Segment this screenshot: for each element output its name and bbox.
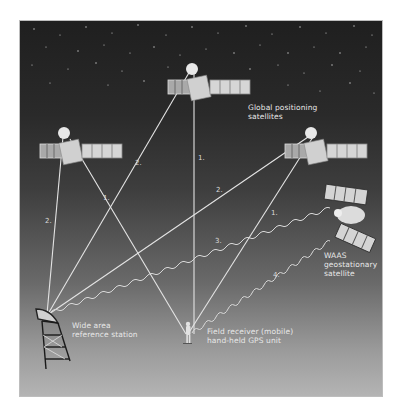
gps-satellite-top xyxy=(168,63,250,101)
label-reference-station: Wide area reference station xyxy=(72,321,138,339)
gps-waas-diagram: Global positioning satellites WAAS geost… xyxy=(20,21,382,396)
signal-number: 1. xyxy=(271,209,278,217)
label-field-receiver: Field receiver (mobile) hand-held GPS un… xyxy=(207,327,293,345)
field-receiver-person xyxy=(183,322,192,344)
signal-number: 2. xyxy=(216,186,223,194)
label-line: satellite xyxy=(324,269,377,278)
signal-number: 1. xyxy=(198,154,205,162)
waas-satellite xyxy=(324,184,376,252)
label-gps-satellites: Global positioning satellites xyxy=(248,103,317,121)
label-line: WAAS xyxy=(324,251,377,260)
signal-number: 1. xyxy=(103,194,110,202)
diagram-graphics xyxy=(20,21,382,396)
label-line: Global positioning xyxy=(248,103,317,112)
label-line: hand-held GPS unit xyxy=(207,336,293,345)
gps-satellite-right xyxy=(285,127,367,165)
signal-number: 4. xyxy=(273,271,280,279)
label-waas-satellite: WAAS geostationary satellite xyxy=(324,251,377,278)
signal-number: 2. xyxy=(135,159,142,167)
label-line: satellites xyxy=(248,112,317,121)
label-line: Wide area xyxy=(72,321,138,330)
label-line: reference station xyxy=(72,330,138,339)
reference-station-tower xyxy=(36,309,70,369)
signal-number: 2. xyxy=(45,217,52,225)
label-line: geostationary xyxy=(324,260,377,269)
gps-satellite-left xyxy=(40,127,122,165)
waas-signal-waves xyxy=(50,207,330,333)
signal-number: 3. xyxy=(215,237,222,245)
label-line: Field receiver (mobile) xyxy=(207,327,293,336)
